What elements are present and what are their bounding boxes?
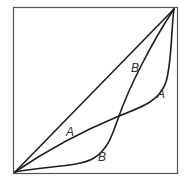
- label-a-lower: A: [65, 125, 74, 139]
- label-a-right: A: [156, 87, 165, 101]
- label-b-lower: B: [98, 150, 106, 164]
- label-b-upper: B: [131, 61, 139, 75]
- diagonal-line: [15, 9, 174, 172]
- diagram: B A A B: [0, 0, 188, 187]
